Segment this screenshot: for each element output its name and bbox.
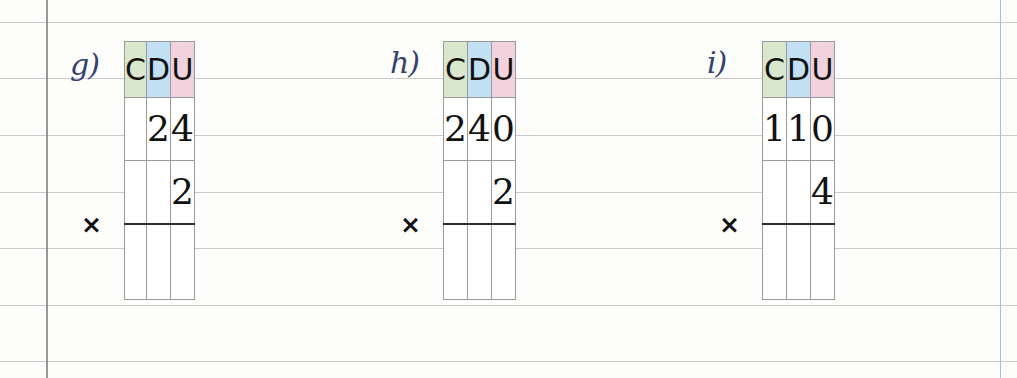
header-cell-tens: D — [786, 42, 810, 98]
header-cell-hundreds: C — [125, 42, 147, 98]
header-cell-units: U — [492, 42, 516, 98]
multiplier-hundreds[interactable] — [763, 161, 787, 225]
worksheet-page: g) × C D U 2 4 2 — [0, 0, 1017, 378]
header-cell-tens: D — [146, 42, 170, 98]
exercise-label-i: i) — [707, 45, 726, 80]
table-header-row: C D U — [763, 42, 835, 98]
answer-hundreds[interactable] — [763, 224, 787, 300]
paper-rule-line — [0, 305, 1017, 306]
answer-tens[interactable] — [786, 224, 810, 300]
multiplicand-units[interactable]: 0 — [811, 98, 835, 161]
answer-row — [444, 224, 516, 300]
multiplier-tens[interactable] — [786, 161, 810, 225]
multiplication-sign-h: × — [400, 212, 421, 237]
table-header-row: C D U — [444, 42, 516, 98]
multiplier-units[interactable]: 2 — [492, 161, 516, 225]
answer-row — [125, 224, 195, 300]
multiplicand-row: 2 4 0 — [444, 98, 516, 161]
multiplier-tens[interactable] — [467, 161, 491, 225]
multiplicand-hundreds[interactable] — [125, 98, 147, 161]
multiplicand-tens[interactable]: 2 — [146, 98, 170, 161]
paper-margin-line — [46, 0, 48, 378]
multiplicand-tens[interactable]: 1 — [786, 98, 810, 161]
multiplicand-hundreds[interactable]: 1 — [763, 98, 787, 161]
paper-rule-line — [0, 22, 1017, 23]
multiplier-hundreds[interactable] — [125, 161, 147, 225]
answer-units[interactable] — [171, 224, 195, 300]
multiplier-units[interactable]: 2 — [171, 161, 195, 225]
multiplicand-units[interactable]: 0 — [492, 98, 516, 161]
answer-row — [763, 224, 835, 300]
answer-hundreds[interactable] — [125, 224, 147, 300]
header-cell-tens: D — [467, 42, 491, 98]
multiplicand-row: 2 4 — [125, 98, 195, 161]
multiplication-sign-i: × — [719, 212, 740, 237]
answer-tens[interactable] — [146, 224, 170, 300]
paper-blue-vertical-line — [1000, 0, 1001, 378]
multiplier-row: 2 — [444, 161, 516, 225]
multiplicand-tens[interactable]: 4 — [467, 98, 491, 161]
place-value-table-h: C D U 2 4 0 2 — [443, 41, 516, 300]
header-cell-hundreds: C — [444, 42, 468, 98]
multiplier-hundreds[interactable] — [444, 161, 468, 225]
header-cell-hundreds: C — [763, 42, 787, 98]
multiplicand-row: 1 1 0 — [763, 98, 835, 161]
place-value-table-g: C D U 2 4 2 — [124, 41, 195, 300]
answer-tens[interactable] — [467, 224, 491, 300]
exercise-label-g: g) — [70, 47, 99, 82]
multiplier-units[interactable]: 4 — [811, 161, 835, 225]
table-header-row: C D U — [125, 42, 195, 98]
answer-units[interactable] — [492, 224, 516, 300]
multiplicand-units[interactable]: 4 — [171, 98, 195, 161]
exercise-label-h: h) — [390, 45, 419, 80]
multiplication-sign-g: × — [81, 212, 102, 237]
header-cell-units: U — [171, 42, 195, 98]
answer-hundreds[interactable] — [444, 224, 468, 300]
multiplier-row: 2 — [125, 161, 195, 225]
answer-units[interactable] — [811, 224, 835, 300]
multiplier-tens[interactable] — [146, 161, 170, 225]
place-value-table-i: C D U 1 1 0 4 — [762, 41, 835, 300]
paper-rule-line — [0, 361, 1017, 362]
header-cell-units: U — [811, 42, 835, 98]
multiplicand-hundreds[interactable]: 2 — [444, 98, 468, 161]
multiplier-row: 4 — [763, 161, 835, 225]
